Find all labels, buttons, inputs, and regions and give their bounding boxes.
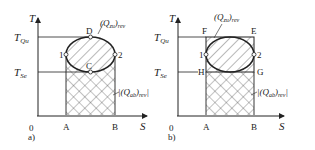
t-axis-label: T: [29, 12, 36, 24]
point-f-label: F: [202, 26, 207, 36]
point-b-label: B: [112, 122, 118, 132]
q-in-label: (Qzu)rev: [100, 18, 126, 29]
point-h-label: H: [198, 67, 205, 77]
point-2-label: 2: [257, 50, 262, 60]
t-qu-label: TQu: [154, 31, 169, 45]
q-in-label: (Qzu)rev: [214, 12, 240, 23]
diagram-a: T S 0 a) TQu TSe D C 1 2 A B (Qzu)rev |(…: [14, 12, 149, 142]
q-out-label: |(Qab)rev|: [257, 87, 288, 98]
point-b-label: B: [251, 122, 257, 132]
ts-diagrams: T S 0 a) TQu TSe D C 1 2 A B (Qzu)rev |(…: [0, 0, 315, 150]
point-g-label: G: [257, 67, 264, 77]
t-se-label: TSe: [14, 66, 27, 80]
diagram-b: T S 0 b) TQu TSe F E H G 1 2 A B (Qzu)re…: [154, 12, 288, 142]
point-1-label: 1: [199, 50, 204, 60]
t-axis-label: T: [169, 12, 176, 24]
point-1-label: 1: [59, 50, 64, 60]
point-c-label: C: [86, 61, 92, 71]
point-d-label: D: [86, 26, 93, 36]
s-axis-label: S: [279, 120, 285, 132]
point-e-label: E: [251, 26, 257, 36]
s-axis-label: S: [140, 120, 146, 132]
point-a-label: A: [203, 122, 210, 132]
t-qu-label: TQu: [14, 31, 29, 45]
q-in-area: [206, 37, 254, 72]
q-out-area: [206, 72, 254, 115]
q-out-label: |(Qab)rev|: [118, 87, 149, 98]
caption-b: b): [168, 132, 176, 142]
t-se-label: TSe: [154, 66, 167, 80]
point-2-label: 2: [118, 50, 123, 60]
caption-a: a): [28, 132, 35, 142]
point-a-label: A: [63, 122, 70, 132]
